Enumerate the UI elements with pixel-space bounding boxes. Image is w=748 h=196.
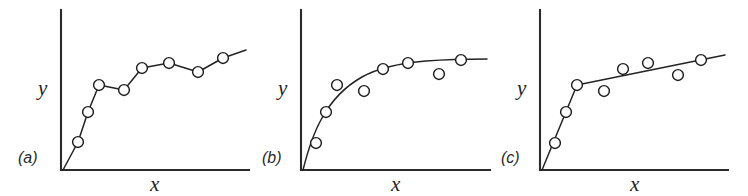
panel-tag-b: (b): [262, 150, 282, 166]
data-point: [643, 58, 654, 69]
panel-b-plot: [250, 0, 500, 196]
data-point: [696, 55, 707, 66]
data-point: [311, 138, 322, 149]
data-point: [561, 107, 572, 118]
panel-c: y x (c): [498, 0, 748, 196]
data-point: [137, 63, 148, 74]
x-axis-label: x: [630, 174, 639, 195]
data-point: [618, 64, 629, 75]
data-point: [572, 80, 583, 91]
panel-tag-c: (c): [501, 150, 520, 166]
data-point: [403, 58, 414, 69]
data-point: [378, 64, 389, 75]
y-axis-label: y: [38, 78, 47, 99]
data-point: [119, 85, 130, 96]
x-axis-label: x: [150, 174, 159, 195]
y-axis-label: y: [278, 78, 287, 99]
data-point: [73, 137, 84, 148]
data-point: [434, 69, 445, 80]
data-point: [83, 107, 94, 118]
panel-a: y x (a): [0, 0, 250, 196]
data-point: [550, 138, 561, 149]
figure-root: y x (a) y x (b): [0, 0, 748, 196]
data-point: [332, 80, 343, 91]
x-axis-label: x: [391, 174, 400, 195]
data-point: [359, 86, 370, 97]
data-point: [193, 67, 204, 78]
y-axis-label: y: [517, 78, 526, 99]
panel-tag-a: (a): [18, 150, 38, 166]
data-point: [599, 86, 610, 97]
data-point: [673, 70, 684, 81]
data-point: [164, 58, 175, 69]
data-point: [218, 53, 229, 64]
panel-b: y x (b): [250, 0, 500, 196]
data-point: [456, 55, 467, 66]
data-point: [94, 80, 105, 91]
panel-c-plot: [498, 0, 748, 196]
data-point: [321, 107, 332, 118]
